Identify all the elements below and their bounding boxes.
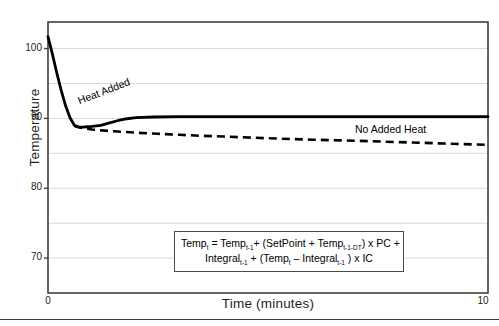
formula-l1-eq-temp: = Temp	[209, 237, 246, 249]
formula-l2-minus-integral: – Integral	[291, 252, 338, 264]
no-added-heat-label: No Added Heat	[355, 123, 426, 135]
y-tick-label-90: 90	[16, 111, 42, 122]
formula-l1-temp-t: Temp	[181, 237, 207, 249]
formula-callout-box: Tempt = Tempt-1+ (SetPoint + Tempt-1-DT)…	[174, 231, 404, 272]
y-tick-label-100: 100	[16, 42, 42, 53]
temperature-vs-time-line-chart	[0, 0, 499, 326]
y-tick-label-70: 70	[16, 251, 42, 262]
y-tick-label-80: 80	[16, 181, 42, 192]
formula-line-1: Tempt = Tempt-1+ (SetPoint + Tempt-1-DT)…	[181, 236, 397, 251]
formula-l1-pc: ) x PC +	[362, 237, 400, 249]
formula-l1-setpoint: + (SetPoint + Temp	[254, 237, 344, 249]
formula-line-2: Integralt-1 + (Tempt – Integralt-1 ) x I…	[181, 251, 397, 266]
formula-l2-sub-t-1: t-1	[240, 259, 248, 266]
formula-l2-temp: + (Temp	[248, 252, 289, 264]
footer-divider	[0, 319, 499, 320]
formula-l2-ic: ) x IC	[345, 252, 373, 264]
formula-l2-sub-t-1b: t-1	[337, 259, 345, 266]
formula-l2-integral: Integral	[205, 252, 240, 264]
chart-figure: Temperature 100 90 80 70 0 10 Time (minu…	[0, 0, 499, 326]
x-axis-title: Time (minutes)	[48, 296, 488, 311]
